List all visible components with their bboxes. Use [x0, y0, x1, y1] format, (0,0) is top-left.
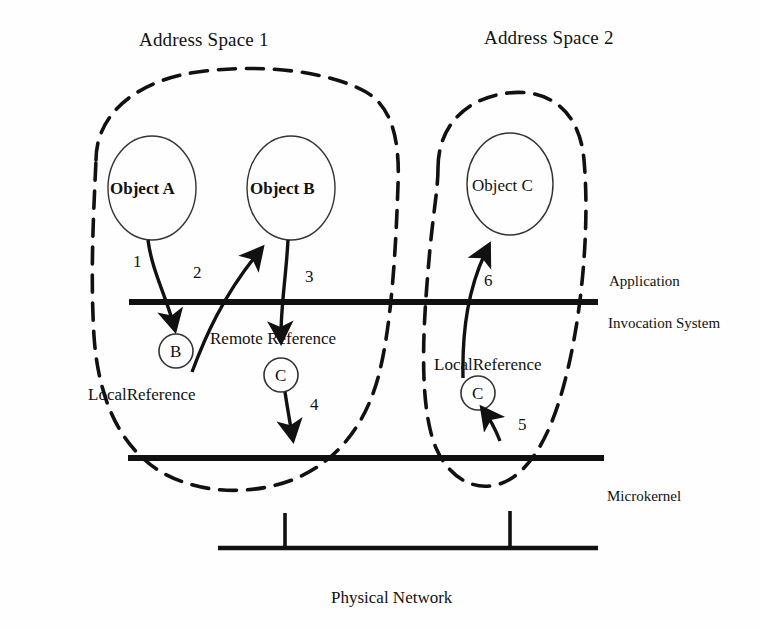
- arrow-3: [281, 240, 288, 342]
- address-space-2-boundary: [424, 92, 586, 486]
- ref-c-left-label: C: [275, 367, 286, 384]
- arrow-4: [285, 392, 293, 440]
- step-2-label: 2: [193, 264, 202, 281]
- remote-reference-label: Remote Reference: [210, 330, 336, 347]
- local-reference-right-label: LocalReference: [434, 356, 542, 373]
- microkernel-layer-label: Microkernel: [607, 489, 681, 504]
- arrow-2: [192, 248, 262, 372]
- local-reference-left-label: LocalReference: [88, 386, 196, 403]
- object-a-label: Object A: [110, 180, 175, 197]
- application-layer-label: Application: [609, 274, 680, 289]
- address-space-2-label: Address Space 2: [484, 28, 614, 47]
- step-1-label: 1: [133, 253, 142, 270]
- step-4-label: 4: [310, 396, 319, 413]
- step-5-label: 5: [518, 416, 527, 433]
- arrow-5: [482, 408, 500, 441]
- step-6-label: 6: [484, 272, 493, 289]
- physical-network-label: Physical Network: [331, 589, 452, 606]
- object-b-label: Object B: [250, 180, 315, 197]
- arrow-1: [148, 240, 175, 330]
- invocation-architecture-diagram: Address Space 1 Address Space 2 Object A…: [0, 0, 760, 629]
- ref-b-label: B: [170, 343, 181, 360]
- invocation-system-layer-label: Invocation System: [608, 316, 720, 331]
- object-c-label: Object C: [472, 177, 533, 194]
- address-space-1-label: Address Space 1: [139, 30, 269, 49]
- ref-c-right-label: C: [472, 385, 483, 402]
- step-3-label: 3: [305, 268, 314, 285]
- address-space-1-boundary: [92, 69, 398, 491]
